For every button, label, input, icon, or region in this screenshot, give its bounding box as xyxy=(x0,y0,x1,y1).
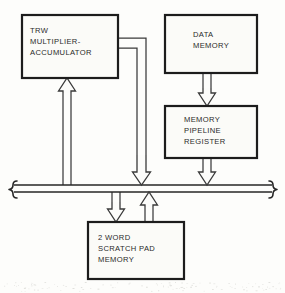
scan-speck xyxy=(34,285,36,286)
scan-speck xyxy=(110,285,112,286)
scan-speck xyxy=(79,291,81,292)
scan-speck xyxy=(169,283,171,284)
scan-speck xyxy=(102,285,104,286)
scan-speck xyxy=(258,287,260,288)
scan-speck xyxy=(45,282,47,283)
scan-speck xyxy=(4,286,5,287)
scan-speck xyxy=(256,290,258,291)
arrow-scratchpad-to-bus xyxy=(141,192,158,207)
scan-speck xyxy=(184,288,185,289)
trw-multiplier-accumulator-block-label-line-3: ACCUMULATOR xyxy=(30,48,92,57)
scan-noise-layer xyxy=(4,282,281,292)
scan-speck xyxy=(42,288,44,289)
scan-speck xyxy=(61,290,62,291)
scratch-pad-memory-block-label-line-1: 2 WORD xyxy=(98,233,131,242)
trw-to-bus-path-outer xyxy=(118,38,146,155)
scan-speck xyxy=(85,282,87,283)
scan-speck xyxy=(243,289,245,290)
scan-speck xyxy=(179,288,180,289)
scan-speck xyxy=(186,283,188,284)
scan-speck xyxy=(31,283,32,284)
scan-speck xyxy=(176,288,178,289)
scan-speck xyxy=(248,283,249,284)
scan-speck xyxy=(269,282,271,283)
scan-speck xyxy=(186,287,187,288)
scan-speck xyxy=(280,289,281,290)
scan-speck xyxy=(193,283,195,284)
scan-speck xyxy=(230,286,231,287)
scan-speck xyxy=(266,289,267,290)
scratch-pad-memory-block: 2 WORDSCRATCH PADMEMORY xyxy=(88,222,184,279)
bus-left-terminator xyxy=(9,181,17,198)
trw-to-bus-path-inner xyxy=(118,48,137,155)
scan-speck xyxy=(48,287,49,288)
scan-speck xyxy=(172,289,173,290)
scan-speck xyxy=(81,287,82,288)
scan-speck xyxy=(7,284,8,285)
scan-speck xyxy=(31,286,32,287)
scan-speck xyxy=(269,288,271,289)
data-memory-block: DATAMEMORY xyxy=(165,15,257,73)
scan-speck xyxy=(16,286,17,287)
scan-speck xyxy=(47,288,48,289)
scan-speck xyxy=(156,283,157,284)
scan-speck xyxy=(175,282,176,283)
scan-speck xyxy=(276,288,277,289)
scan-speck xyxy=(263,290,264,291)
scan-speck xyxy=(204,291,205,292)
scan-speck xyxy=(252,286,253,287)
scan-speck xyxy=(141,286,143,287)
trw-multiplier-accumulator-block-label-line-2: MULTIPLIER- xyxy=(30,37,81,46)
scan-speck xyxy=(117,282,118,283)
scan-speck xyxy=(181,283,182,284)
scan-speck xyxy=(98,289,100,290)
memory-pipeline-register-block-label-line-1: MEMORY xyxy=(184,115,220,124)
scan-speck xyxy=(247,291,248,292)
scan-speck xyxy=(234,288,236,289)
arrow-data-memory-to-pipeline xyxy=(199,88,216,106)
scan-speck xyxy=(33,283,34,284)
scan-speck xyxy=(213,283,215,284)
scan-speck xyxy=(57,286,58,287)
data-memory-block-label-line-2: MEMORY xyxy=(193,41,229,50)
block-diagram-figure: TRWMULTIPLIER-ACCUMULATORDATAMEMORYMEMOR… xyxy=(0,0,285,293)
scan-speck xyxy=(231,287,232,288)
scan-speck xyxy=(82,289,84,290)
scan-speck xyxy=(161,283,162,284)
trw-multiplier-accumulator-block-label-line-1: TRW xyxy=(30,26,49,35)
scan-speck xyxy=(18,285,19,286)
scan-speck xyxy=(168,287,169,288)
scan-speck xyxy=(216,287,217,288)
scan-speck xyxy=(74,285,76,286)
scan-speck xyxy=(262,284,263,285)
arrow-bus-to-scratchpad xyxy=(108,202,125,222)
scan-speck xyxy=(267,287,268,288)
scan-speck xyxy=(14,285,15,286)
scan-speck xyxy=(28,289,30,290)
scan-speck xyxy=(170,285,172,286)
scan-speck xyxy=(128,284,130,285)
scan-speck xyxy=(210,283,211,284)
scan-speck xyxy=(255,283,256,284)
scan-speck xyxy=(73,288,75,289)
scan-speck xyxy=(199,283,200,284)
scan-speck xyxy=(279,283,280,284)
scratch-pad-memory-block-label-line-3: MEMORY xyxy=(98,255,134,264)
memory-pipeline-register-block-label-line-3: REGISTER xyxy=(184,137,226,146)
scan-speck xyxy=(212,289,214,290)
scan-speck xyxy=(115,287,116,288)
scan-speck xyxy=(25,291,26,292)
scan-speck xyxy=(21,282,22,283)
scan-speck xyxy=(170,286,171,287)
bus-right-terminator xyxy=(269,181,277,198)
scratch-pad-memory-block-label-line-2: SCRATCH PAD xyxy=(98,244,155,253)
scan-speck xyxy=(54,284,55,285)
trw-multiplier-accumulator-block-outline xyxy=(22,15,118,78)
scan-speck xyxy=(37,290,38,291)
scan-speck xyxy=(221,289,223,290)
memory-pipeline-register-block: MEMORYPIPELINEREGISTER xyxy=(165,106,257,158)
scan-speck xyxy=(90,288,91,289)
scan-speck xyxy=(31,284,32,285)
scan-speck xyxy=(146,287,148,288)
scan-speck xyxy=(192,285,193,286)
